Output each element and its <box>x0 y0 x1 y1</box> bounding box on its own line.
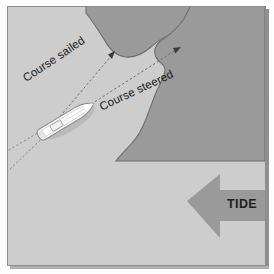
navigation-diagram-figure: Course sailed Course steered TIDE <box>0 0 274 274</box>
map-canvas <box>8 7 265 265</box>
tide-label: TIDE <box>227 197 257 211</box>
plate-shadow-right <box>266 9 269 269</box>
map-plate: Course sailed Course steered TIDE <box>7 6 266 266</box>
plate-shadow-bottom <box>10 266 269 269</box>
